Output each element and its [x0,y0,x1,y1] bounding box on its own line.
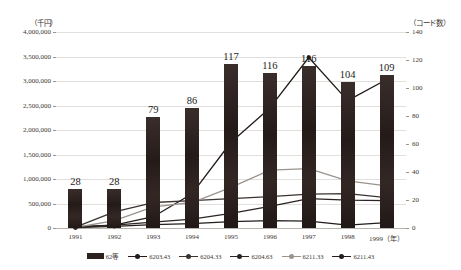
bar-value-label: 79 [133,104,173,115]
legend-label: 6204.63 [251,253,272,260]
y-axis-left-tick-label: 3,500,000 [3,53,51,61]
y-axis-right-tickmark [406,32,409,33]
legend-line-swatch-icon [128,253,147,260]
y-axis-left-tick-label: 0 [3,224,51,232]
legend-label: 6204.33 [200,253,221,260]
y-axis-right-tick-label: 100 [412,84,442,92]
legend-line-swatch-icon [179,253,198,260]
legend-label: 62等 [106,251,120,261]
legend-label: 6211.43 [353,253,374,260]
chart-legend: 62等6203.436204.336204.636211.336211.43 [0,251,461,261]
bar [341,82,355,228]
bar-value-label: 116 [250,60,290,71]
y-axis-left-tick-label: 1,000,000 [3,175,51,183]
legend-item[interactable]: 6211.43 [332,253,374,260]
x-axis-tick-label: 1999（年） [364,233,410,243]
bar [68,189,82,228]
bar-value-label: 109 [367,62,407,73]
y-axis-right-tick-label: 40 [412,168,442,176]
y-axis-right-tickmark [406,144,409,145]
legend-item[interactable]: 62等 [87,251,120,261]
y-axis-right-tick-label: 80 [412,112,442,120]
legend-line-swatch-icon [230,253,249,260]
legend-line-swatch-icon [282,253,301,260]
y-axis-left-tick-label: 3,000,000 [3,77,51,85]
y-axis-right-tickmark [406,228,409,229]
legend-bar-swatch-icon [87,253,104,259]
legend-item[interactable]: 6204.63 [230,253,272,260]
legend-label: 6211.33 [303,253,324,260]
legend-line-swatch-icon [332,253,351,260]
bar-value-label: 104 [328,69,368,80]
y-axis-right-tick-label: 120 [412,56,442,64]
bar-value-label: 86 [172,95,212,106]
y-axis-right-tickmark [406,116,409,117]
y-axis-right-tickmark [406,88,409,89]
y-axis-left-tick-label: 2,000,000 [3,126,51,134]
bar [380,75,394,228]
y-axis-right-tickmark [406,60,409,61]
y-axis-right-tickmark [406,200,409,201]
y-axis-right-tick-label: 20 [412,196,442,204]
y-axis-left-tick-label: 2,500,000 [3,102,51,110]
left-axis-unit-label: （千円） [30,17,57,28]
y-axis-left-tick-label: 500,000 [3,200,51,208]
y-axis-left-tick-label: 4,000,000 [3,28,51,36]
legend-label: 6203.43 [149,253,170,260]
gridline [56,228,406,229]
legend-item[interactable]: 6211.33 [282,253,324,260]
legend-item[interactable]: 6203.43 [128,253,170,260]
legend-item[interactable]: 6204.33 [179,253,221,260]
bar-value-label: 116 [289,53,329,64]
bar-value-label: 28 [94,176,134,187]
bar [146,117,160,228]
chart-container: （千円） （コード数） 4,000,0003,500,0003,000,0002… [0,0,461,270]
y-axis-left-tick-label: 1,500,000 [3,151,51,159]
y-axis-right-tick-label: 60 [412,140,442,148]
right-axis-unit-label: （コード数） [409,17,450,28]
bar-value-label: 117 [211,51,251,62]
bar [224,64,238,228]
y-axis-right-tick-label: 0 [412,224,442,232]
y-axis-right-tick-label: 140 [412,28,442,36]
bar [302,66,316,228]
bar [263,73,277,228]
y-axis-right-tickmark [406,172,409,173]
bar [107,189,121,228]
bar-value-label: 28 [55,176,95,187]
bar [185,108,199,228]
